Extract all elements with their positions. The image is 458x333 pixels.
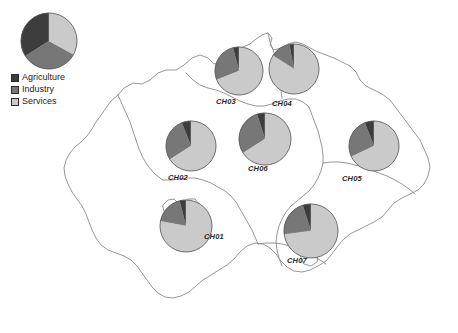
legend-item-agriculture: Agriculture — [11, 72, 65, 83]
region-label-ch06: CH06 — [248, 164, 268, 173]
region-pie-ch07[interactable] — [283, 203, 339, 259]
region-label-ch05: CH05 — [342, 174, 362, 183]
legend-label-services: Services — [22, 97, 57, 106]
legend-swatch-services — [11, 98, 19, 106]
region-label-ch04: CH04 — [272, 99, 292, 108]
legend-item-industry: Industry — [11, 84, 65, 95]
region-pie-ch06[interactable] — [238, 112, 292, 166]
region-pie-ch03[interactable] — [214, 46, 264, 96]
region-pie-ch05[interactable] — [348, 120, 400, 172]
region-pie-ch02[interactable] — [165, 120, 217, 172]
legend: Agriculture Industry Services — [8, 8, 112, 106]
legend-swatch-agriculture — [11, 74, 19, 82]
legend-label-agriculture: Agriculture — [22, 73, 65, 82]
region-pie-ch04[interactable] — [268, 43, 320, 95]
legend-label-industry: Industry — [22, 85, 54, 94]
region-label-ch07: CH07 — [287, 256, 307, 265]
map-internal-border-4 — [118, 95, 163, 180]
legend-swatch-industry — [11, 86, 19, 94]
region-label-ch03: CH03 — [216, 97, 236, 106]
legend-items: Agriculture Industry Services — [11, 72, 65, 108]
region-label-ch02: CH02 — [168, 173, 188, 182]
region-pie-ch01[interactable] — [159, 199, 213, 253]
figure-canvas: CH01CH02CH03CH04CH05CH06CH07 Agriculture… — [0, 0, 458, 333]
legend-item-services: Services — [11, 96, 65, 107]
region-label-ch01: CH01 — [204, 232, 224, 241]
legend-overview-pie — [20, 12, 78, 70]
